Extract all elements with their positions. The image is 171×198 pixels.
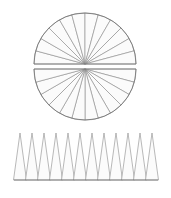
circle-dissection-diagram [0,0,171,198]
figure-root [0,0,171,198]
